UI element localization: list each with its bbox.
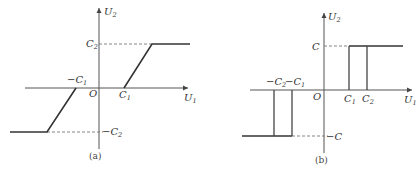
label-c1-b: C1 bbox=[344, 93, 356, 106]
caption-a: (a) bbox=[89, 151, 101, 161]
label-neg-c2-a: −C2 bbox=[102, 126, 122, 139]
upper-branch-a bbox=[124, 44, 190, 88]
label-neg-c-b: −C bbox=[326, 131, 342, 142]
origin-label-a: O bbox=[89, 88, 97, 99]
y-axis-label-a: U2 bbox=[104, 6, 117, 19]
label-c2-b: C2 bbox=[362, 93, 374, 106]
x-axis-label-b: U1 bbox=[404, 94, 417, 107]
label-neg-c2-b: −C2 bbox=[266, 76, 286, 89]
y-axis-label-b: U2 bbox=[328, 11, 341, 24]
label-c-b: C bbox=[312, 41, 320, 52]
caption-b: (b) bbox=[315, 155, 328, 165]
label-neg-c1-b: −C1 bbox=[285, 76, 305, 89]
x-axis-label-a: U1 bbox=[184, 92, 197, 105]
label-neg-c1-a: −C1 bbox=[67, 74, 87, 87]
panel-a: U2 U1 O C2 −C2 C1 −C1 (a) bbox=[10, 6, 197, 161]
label-c1-a: C1 bbox=[119, 89, 131, 102]
panel-b: U2 U1 O C −C C1 C2 −C2 −C1 (b) bbox=[242, 11, 417, 165]
nonlinear-characteristics-figure: U2 U1 O C2 −C2 C1 −C1 (a) U2 U1 O C −C C… bbox=[0, 0, 420, 174]
origin-label-b: O bbox=[313, 91, 321, 102]
lower-branch-a bbox=[10, 88, 76, 132]
label-c2-a: C2 bbox=[86, 38, 98, 51]
